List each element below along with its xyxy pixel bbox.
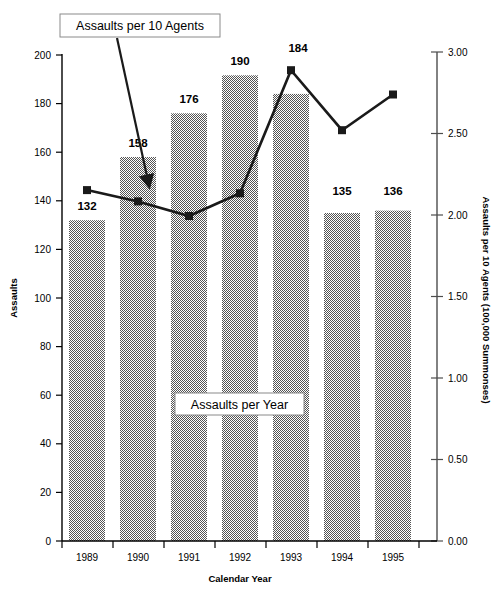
bar-1995 [375,211,411,541]
x-axis-category-labels: 1989 1990 1991 1992 1993 1994 1995 [76,552,405,563]
x-axis: 1989 1990 1991 1992 1993 1994 1995 Calen… [62,541,437,584]
left-axis: 0 20 40 60 80 100 120 140 160 180 200 As… [8,50,62,547]
line-marker-1990 [134,197,142,205]
ytick-label-80: 80 [40,341,52,352]
y2-axis-title: Assaults per 10 Agents (100,000 Summonse… [481,196,492,403]
line-marker-1995 [389,91,397,99]
line-marker-1994 [338,126,346,134]
bar-label-1989: 132 [77,200,96,212]
bar-label-1995: 136 [383,185,402,197]
bar-label-1991: 176 [179,93,198,105]
bar-label-1992: 190 [230,55,249,67]
left-axis-ticks [56,55,62,541]
ytick-label-160: 160 [34,147,51,158]
ytick-label-60: 60 [40,390,52,401]
line-marker-1992 [236,189,244,197]
callout-label-agents: Assaults per 10 Agents [76,19,204,33]
y2tick-label-100: 1.00 [448,373,468,384]
y2tick-label-050: 0.50 [448,454,468,465]
bar-series-callout: Assaults per Year [175,393,304,415]
xtick-label-1992: 1992 [229,552,252,563]
left-axis-tick-labels: 0 20 40 60 80 100 120 140 160 180 200 [34,50,51,547]
bar-1989 [69,220,105,541]
bar-1993 [273,94,309,541]
right-axis: 0.00 0.50 1.00 1.50 2.00 2.50 3.00 Assau… [431,47,492,547]
y2tick-label-250: 2.50 [448,128,468,139]
xtick-label-1993: 1993 [280,552,303,563]
xtick-label-1995: 1995 [382,552,405,563]
ytick-label-140: 140 [34,195,51,206]
ytick-label-0: 0 [45,536,51,547]
line-marker-1991 [185,212,193,220]
xtick-label-1994: 1994 [331,552,354,563]
x-axis-title: Calendar Year [208,573,272,584]
line-marker-1993 [287,66,295,74]
xtick-label-1989: 1989 [76,552,99,563]
x-axis-ticks [62,541,419,548]
y-axis-title: Assaults [8,278,19,318]
bar-1992 [222,75,258,541]
ytick-label-100: 100 [34,293,51,304]
chart-container: 132 158 176 190 184 135 136 [0,0,496,591]
callout-label-year: Assaults per Year [191,398,288,412]
y2tick-label-150: 1.50 [448,291,468,302]
ytick-label-120: 120 [34,244,51,255]
y2tick-label-300: 3.00 [448,47,468,58]
bar-label-1994: 135 [332,185,352,197]
ytick-label-20: 20 [40,487,52,498]
bar-1991 [171,113,207,541]
right-axis-tick-labels: 0.00 0.50 1.00 1.50 2.00 2.50 3.00 [448,47,468,547]
xtick-label-1991: 1991 [178,552,201,563]
bar-1990 [120,157,156,541]
y2tick-label-000: 0.00 [448,536,468,547]
assaults-chart: 132 158 176 190 184 135 136 [0,0,496,591]
bar-1994 [324,213,360,541]
line-marker-1989 [83,186,91,194]
xtick-label-1990: 1990 [127,552,150,563]
y2tick-label-200: 2.00 [448,210,468,221]
ytick-label-200: 200 [34,50,51,61]
ytick-label-180: 180 [34,98,51,109]
ytick-label-40: 40 [40,438,52,449]
bar-label-1993: 184 [288,42,308,54]
